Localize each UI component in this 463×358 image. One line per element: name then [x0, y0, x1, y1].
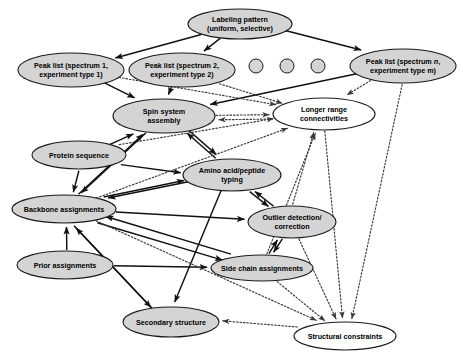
edge-labeling-to-peakn: [283, 30, 361, 50]
edge-protseq-to-aatype: [121, 165, 181, 173]
edge-outlier-to-longer: [293, 133, 314, 204]
edge-peakn-to-longer: [347, 79, 373, 95]
edge-structural-to-secondary: [223, 321, 298, 327]
node-backbone[interactable]: [12, 195, 116, 223]
node-spin[interactable]: [113, 99, 215, 133]
node-protseq[interactable]: [32, 141, 126, 169]
diagram-canvas: Labeling pattern(uniform, selective)Peak…: [0, 0, 463, 358]
edge-backbone-to-aatype: [104, 180, 184, 196]
edge-backbone-to-sidechain: [97, 223, 222, 260]
ellipsis-dot-1: [249, 59, 263, 73]
node-longer[interactable]: [273, 98, 375, 130]
node-outlier[interactable]: [248, 206, 336, 238]
edge-protseq-to-spin: [108, 134, 133, 145]
node-secondary[interactable]: [123, 307, 219, 337]
edge-sidechain-to-backbone: [106, 217, 231, 255]
ellipsis-dot-3: [311, 59, 325, 73]
edge-aatype-to-secondary: [175, 190, 221, 302]
node-labeling[interactable]: [188, 9, 292, 39]
node-peakn[interactable]: [350, 49, 456, 83]
node-sidechain[interactable]: [211, 255, 313, 281]
node-peak2[interactable]: [129, 53, 235, 87]
ellipsis-dot-2: [280, 59, 294, 73]
edge-aatype-to-spin: [187, 133, 216, 158]
edge-backbone-to-outlier: [116, 212, 245, 219]
node-structural[interactable]: [294, 322, 396, 350]
edge-outlier-to-sidechain: [274, 239, 283, 252]
diagram-svg: Labeling pattern(uniform, selective)Peak…: [0, 0, 463, 358]
edge-prior-to-sidechain: [114, 266, 207, 267]
edge-spin-to-longer: [216, 115, 269, 116]
edge-spin-to-aatype: [188, 130, 216, 155]
node-peak1[interactable]: [18, 53, 124, 87]
node-layer: [12, 9, 456, 350]
edge-sidechain-to-structural: [277, 282, 325, 321]
edge-peak1-to-spin: [104, 82, 135, 97]
edge-peak2-to-spin: [168, 87, 171, 95]
node-prior[interactable]: [17, 251, 113, 279]
node-aatype[interactable]: [183, 159, 281, 191]
edge-outlier-to-structural: [299, 239, 336, 319]
edge-protseq-to-backbone: [73, 171, 79, 192]
edge-labeling-to-peak2: [204, 38, 221, 51]
